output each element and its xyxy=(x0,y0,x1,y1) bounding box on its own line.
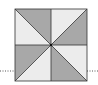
pinwheel-diagram xyxy=(0,0,98,85)
center-dot xyxy=(50,44,52,46)
